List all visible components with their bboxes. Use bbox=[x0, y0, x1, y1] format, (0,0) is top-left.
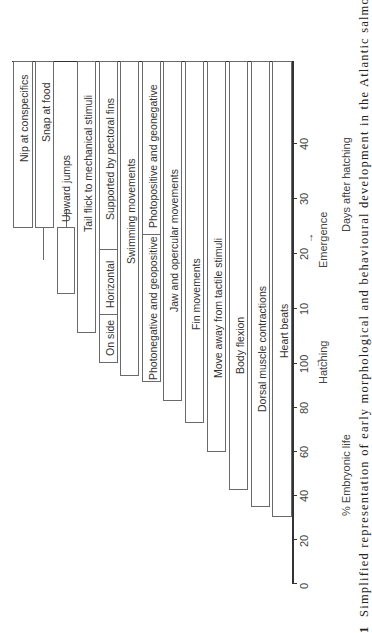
axis-label-days: Days after hatching bbox=[340, 137, 352, 232]
bar-label: Snap at food bbox=[40, 82, 52, 142]
bar-swimming-movements: Swimming movements bbox=[120, 61, 139, 376]
bar-phototaxis: Photopositive and geonegative Photonegat… bbox=[142, 61, 161, 382]
tick-label: 10 bbox=[298, 303, 310, 315]
tick-label: 0 bbox=[298, 583, 310, 589]
axis-label-embryonic: % Embryonic life bbox=[340, 434, 352, 516]
bar-move-away: Move away from tactile stimuli bbox=[207, 61, 226, 452]
bar-label: Tail flick to mechanical stimuli bbox=[82, 95, 94, 232]
bar-label: Heart beats bbox=[278, 304, 290, 358]
bar-posture: Supported by pectoral fins Horizontal On… bbox=[99, 61, 118, 363]
tick-label: 40 bbox=[298, 138, 310, 150]
bar-heart-beats: Heart beats bbox=[272, 61, 292, 517]
snap-at-food-extension bbox=[43, 228, 44, 260]
tick bbox=[293, 253, 297, 254]
bar-dorsal-muscle: Dorsal muscle contractions bbox=[251, 61, 270, 507]
caption-text: Simplified representation of early morph… bbox=[357, 0, 371, 617]
bar-label: Move away from tactile stimuli bbox=[212, 238, 224, 378]
split-phototaxis bbox=[143, 234, 160, 235]
bar-label-supported: Supported by pectoral fins bbox=[104, 98, 116, 220]
tick bbox=[293, 308, 297, 309]
bar-label: Fin movements bbox=[190, 258, 202, 330]
bar-label: Upward jumps bbox=[60, 155, 72, 222]
bar-label: Dorsal muscle contractions bbox=[256, 286, 268, 412]
tick-label: 40 bbox=[298, 490, 310, 502]
emergence-label: Emergence bbox=[317, 212, 329, 268]
tick bbox=[293, 451, 297, 452]
figure-caption: 1 Simplified representation of early mor… bbox=[357, 0, 372, 633]
tick-label: 100 bbox=[298, 355, 310, 373]
tick-label: 60 bbox=[298, 446, 310, 458]
bar-snap-at-food: Snap at food bbox=[35, 61, 54, 228]
bar-label: Jaw and opercular movements bbox=[168, 169, 180, 312]
emergence-arrow-icon: → bbox=[304, 233, 315, 243]
tick-label: 20 bbox=[298, 535, 310, 547]
hatching-label: Hatching bbox=[317, 341, 329, 384]
tick bbox=[293, 143, 297, 144]
bar-tail-flick: Tail flick to mechanical stimuli bbox=[77, 61, 96, 333]
bar-label-horizontal: Horizontal bbox=[104, 261, 116, 308]
bar-jaw-opercular: Jaw and opercular movements bbox=[163, 61, 182, 401]
tick-label: 30 bbox=[298, 193, 310, 205]
bar-label: Nip at conspecifics bbox=[18, 74, 30, 162]
bar-label: Body flexion bbox=[234, 317, 246, 374]
bar-body-flexion: Body flexion bbox=[229, 61, 248, 490]
tick bbox=[293, 363, 297, 364]
tick-label: 80 bbox=[298, 402, 310, 414]
bar-label-on-side: On side bbox=[104, 320, 116, 356]
bar-label: Swimming movements bbox=[125, 158, 137, 264]
tick bbox=[293, 407, 297, 408]
tick bbox=[293, 198, 297, 199]
tick-label: 20 bbox=[298, 248, 310, 260]
time-axis bbox=[292, 61, 294, 584]
split-horizontal-supported bbox=[100, 249, 117, 250]
split-onside-horizontal bbox=[100, 314, 117, 315]
bar-label-photopositive: Photopositive and geonegative bbox=[147, 84, 159, 228]
caption-number: 1 bbox=[357, 626, 371, 633]
tick bbox=[293, 539, 297, 540]
bar-fin-movements: Fin movements bbox=[185, 61, 204, 423]
tick bbox=[293, 495, 297, 496]
tick bbox=[293, 583, 297, 584]
bar-nip-at-conspecifics: Nip at conspecifics bbox=[13, 61, 33, 228]
bar-upward-jumps bbox=[57, 227, 75, 294]
bar-label-photonegative: Photonegative and geopositive bbox=[147, 236, 159, 380]
